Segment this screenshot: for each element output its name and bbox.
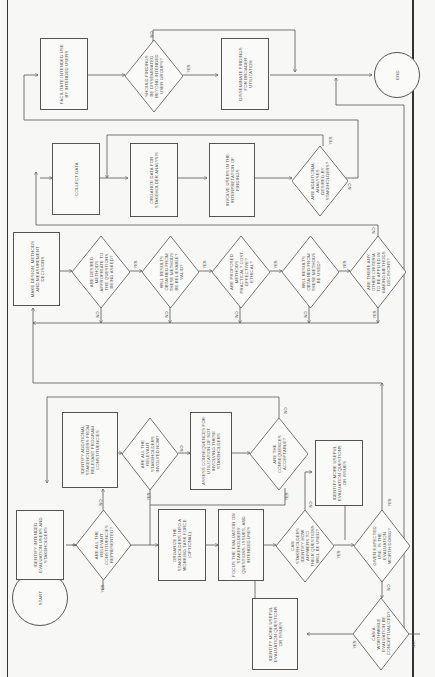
identify-more-2-label: IDENTIFY MORE USEFUL EVALUATION QUESTION…: [268, 603, 283, 665]
decision-other-criteria-text: ARE THERE ANY OTHER CRITERIA TO BE APPLI…: [350, 236, 406, 308]
involve-users-label: INVOLVE USERS IN THE INTERPRETATION OF F…: [225, 150, 240, 210]
label-yes-appropriate: YES: [133, 260, 138, 268]
q-identify-use-label: CAN STAKEHOLDERS IDENTIFY HOW ANSWERS TO…: [290, 525, 320, 567]
label-no-additional: NO: [347, 184, 352, 190]
focus-evaluation-box: FOCUS THE EVALUATION ON STAKEHOLDERS' QU…: [218, 509, 264, 581]
label-yes-practical: YES: [273, 260, 278, 268]
q-involved-label: ARE ALL THE RELEVANT STAKEHOLDERS INVOLV…: [140, 434, 160, 474]
label-yes-constituencies: YES: [100, 584, 105, 592]
label-no-used: NO: [303, 312, 308, 318]
focus-evaluation-label: FOCUS THE EVALUATION ON STAKEHOLDERS' QU…: [231, 513, 251, 577]
label-yes-expected-use: YES: [387, 498, 392, 506]
make-design-label: MAKE DESIGN, METHODS AND MEASUREMENT DEC…: [29, 238, 44, 300]
decision-disseminate-text: SHOULD FINDINGS BE DISSEMINATED BEYOND I…: [125, 40, 183, 112]
q-used-label: WILL RESULTS OBTAINED FROM THESE METHODS…: [301, 251, 321, 293]
label-yes-disseminate: YES: [186, 64, 191, 72]
q-disseminate-label: SHOULD FINDINGS BE DISSEMINATED BEYOND I…: [144, 54, 164, 98]
label-yes-used: YES: [342, 260, 347, 268]
decision-identify-use-text: CAN STAKEHOLDERS IDENTIFY HOW ANSWERS TO…: [276, 510, 334, 582]
identify-more-1-label: IDENTIFY MORE USEFUL EVALUATION QUESTION…: [332, 444, 347, 502]
label-no-expected-use: NO: [386, 585, 391, 591]
collect-data-box: COLLECT DATA: [52, 143, 100, 215]
q-additional-analysis-label: ARE ADDITIONAL ANALYSES DESIRED BY STAKE…: [310, 160, 330, 202]
end-terminal: END: [374, 52, 420, 98]
decision-used-text: WILL RESULTS OBTAINED FROM THESE METHODS…: [282, 236, 339, 308]
label-no-other-criteria: NO: [371, 228, 376, 234]
q-other-criteria-label: ARE THERE ANY OTHER CRITERIA TO BE APPLI…: [366, 250, 391, 294]
label-no-constituencies: NO: [98, 500, 103, 506]
flowchart: START IDENTIFY INTENDED EVALUATION USERS…: [0, 0, 435, 677]
start-label: START: [38, 591, 43, 605]
label-yes-other-criteria: YES: [372, 310, 377, 318]
end-label: END: [395, 70, 400, 79]
label-no-involved: NO: [179, 446, 184, 452]
identify-more-box-1: IDENTIFY MORE USEFUL EVALUATION QUESTION…: [315, 440, 363, 506]
label-yes-additional: YES: [328, 136, 333, 144]
label-yes-believable: YES: [202, 260, 207, 268]
q-acceptable-label: ARE THE CONSEQUENCES ACCEPTABLE?: [272, 434, 287, 474]
facilitate-use-label: FACILITATE INTENDED USE BY INTENDED USER…: [59, 44, 69, 104]
decision-constituencies-text: ARE ALL THE RELEVANT CONSTITUENCIES REPR…: [76, 510, 131, 580]
disseminate-label: DISSEMINATE FINDINGS FOR BROADER UTILIZA…: [238, 44, 253, 104]
disseminate-box: DISSEMINATE FINDINGS FOR BROADER UTILIZA…: [221, 38, 269, 110]
label-no-appropriate: NO: [95, 312, 100, 318]
label-no-believable: NO: [164, 312, 169, 318]
facilitate-use-box: FACILITATE INTENDED USE BY INTENDED USER…: [40, 38, 88, 110]
identify-users-box: IDENTIFY INTENDED EVALUATION USERS AND S…: [16, 510, 64, 580]
q-expected-use-label: GIVEN EXPECTED USE, IS THE EVALUATION WO…: [372, 526, 392, 566]
organize-data-label: ORGANIZE DATA FOR STAKEHOLDER ANALYSIS: [149, 150, 159, 210]
identify-additional-box: IDENTIFY ADDITIONAL STAKEHOLDERS FROM RE…: [62, 412, 118, 488]
q-appropriate-label: ARE DESIRED METHODS APPROPRIATE TO THE Q…: [89, 250, 114, 294]
label-yes-identify-use: YES: [336, 550, 341, 558]
make-design-box: MAKE DESIGN, METHODS AND MEASUREMENT DEC…: [13, 232, 60, 306]
label-no-disseminate: NO: [149, 32, 154, 38]
label-no-worthwhile: NO: [411, 642, 416, 648]
decision-involved-text: ARE ALL THE RELEVANT STAKEHOLDERS INVOLV…: [122, 418, 178, 490]
decision-practical-text: ARE PROPOSED METHODS PRACTICAL? COST-EFF…: [212, 236, 270, 308]
q-believable-label: WILL RESULTS OBTAINED FROM THESE METHODS…: [158, 251, 183, 293]
organize-task-force-box: ORGANIZE THE STAKEHOLDERS INTO A WORKING…: [158, 509, 206, 581]
decision-acceptable-text: ARE THE CONSEQUENCES ACCEPTABLE?: [250, 418, 308, 490]
q-constituencies-label: ARE ALL THE RELEVANT CONSTITUENCIES REPR…: [94, 525, 114, 565]
organize-task-force-label: ORGANIZE THE STAKEHOLDERS INTO A WORKING…: [172, 513, 192, 577]
decision-appropriate-text: ARE DESIRED METHODS APPROPRIATE TO THE Q…: [72, 236, 130, 308]
decision-expected-use-text: GIVEN EXPECTED USE, IS THE EVALUATION WO…: [354, 510, 410, 582]
label-yes-worthwhile: YES: [352, 640, 357, 648]
organize-data-box: ORGANIZE DATA FOR STAKEHOLDER ANALYSIS: [130, 143, 178, 217]
decision-additional-analyses-text: ARE ADDITIONAL ANALYSES DESIRED BY STAKE…: [292, 146, 348, 216]
assess-consequences-box: ASSESS CONSEQUENCES FOR UTILIZATION OF N…: [190, 412, 232, 490]
assess-consequences-label: ASSESS CONSEQUENCES FOR UTILIZATION OF N…: [201, 416, 221, 486]
decision-worthwhile-text: CAN A WORTHWHILE EVALUATION BE CONCEPTUA…: [353, 598, 409, 670]
label-no-practical: NO: [234, 312, 239, 318]
label-yes-acceptable: YES: [284, 492, 289, 500]
decision-believable-text: WILL RESULTS OBTAINED FROM THESE METHODS…: [142, 236, 199, 308]
label-yes-involved: YES: [146, 492, 151, 500]
identify-more-box-2: IDENTIFY MORE USEFUL EVALUATION QUESTION…: [252, 598, 298, 670]
collect-data-label: COLLECT DATA: [74, 149, 79, 209]
identify-additional-label: IDENTIFY ADDITIONAL STAKEHOLDERS FROM RE…: [80, 417, 100, 483]
label-no-acceptable: NO: [283, 408, 288, 414]
label-no-identify-use: NO: [308, 502, 313, 508]
q-practical-label: ARE PROPOSED METHODS PRACTICAL? COST-EFF…: [229, 250, 254, 294]
q-worthwhile-label: CAN A WORTHWHILE EVALUATION BE CONCEPTUA…: [371, 613, 391, 655]
involve-users-box: INVOLVE USERS IN THE INTERPRETATION OF F…: [209, 143, 255, 217]
identify-users-label: IDENTIFY INTENDED EVALUATION USERS AND S…: [33, 514, 48, 576]
